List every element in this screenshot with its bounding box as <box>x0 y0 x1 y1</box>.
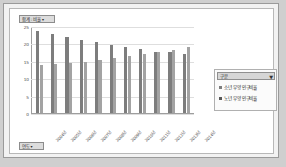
bar-group <box>51 27 58 113</box>
chart-container: 합계 : 비율▾ 0510152025 2004년2005년2006년2007년… <box>3 3 279 158</box>
legend-slicer: 구분 ▼ 소년 부양 인구비율 노년 부양 인구비율 <box>214 69 277 111</box>
bar[interactable] <box>187 47 190 113</box>
y-axis-tick-label: 20 <box>24 42 29 47</box>
bar[interactable] <box>143 54 146 114</box>
legend-item-label: 노년 부양 인구비율 <box>224 95 257 101</box>
bar-group <box>65 27 72 113</box>
bar-group <box>95 27 102 113</box>
x-axis-labels: 2004년2005년2006년2007년2008년2009년2010년2011년… <box>32 115 195 141</box>
bar-group <box>154 27 161 113</box>
bar-group <box>36 27 43 113</box>
legend-item-0[interactable]: 소년 부양 인구비율 <box>219 84 257 90</box>
y-axis-tick-label: 10 <box>24 77 29 82</box>
pivot-row-field-button[interactable]: 연도▾ <box>19 142 44 150</box>
bar-group <box>168 27 175 113</box>
legend-header-label: 구분 <box>220 73 228 79</box>
bar[interactable] <box>54 64 57 113</box>
bar[interactable] <box>113 58 116 113</box>
filter-icon[interactable]: ▼ <box>269 74 273 80</box>
bar-group <box>110 27 117 113</box>
x-axis-tick-label: 2014년 <box>203 130 216 143</box>
y-axis-tick-label: 15 <box>24 59 29 64</box>
legend-header[interactable]: 구분 ▼ <box>217 72 275 80</box>
bar-group <box>183 27 190 113</box>
legend-swatch-icon <box>219 97 222 100</box>
y-axis-tick-label: 5 <box>26 94 29 99</box>
bar[interactable] <box>157 52 160 113</box>
legend-swatch-icon <box>219 86 222 89</box>
bar-group <box>80 27 87 113</box>
pivot-value-field-label: 합계 : 비율 <box>22 17 41 22</box>
bar-groups <box>32 27 194 113</box>
chevron-down-icon: ▾ <box>42 17 44 22</box>
bar[interactable] <box>172 50 175 113</box>
bar[interactable] <box>128 56 131 113</box>
bar-group <box>124 27 131 113</box>
legend-item-label: 소년 부양 인구비율 <box>224 84 257 90</box>
legend-item-1[interactable]: 노년 부양 인구비율 <box>219 95 257 101</box>
y-axis-tick-label: 25 <box>24 25 29 30</box>
bar[interactable] <box>69 63 72 113</box>
x-axis-label-wrap: 2014년 <box>196 122 219 145</box>
y-axis-tick-label: 0 <box>26 112 29 117</box>
bar-group <box>139 27 146 113</box>
chevron-down-icon: ▾ <box>31 144 33 149</box>
bar[interactable] <box>84 62 87 113</box>
bar[interactable] <box>40 65 43 113</box>
pivot-value-field-button[interactable]: 합계 : 비율▾ <box>19 15 55 23</box>
bar[interactable] <box>98 60 101 113</box>
plot-region: 0510152025 <box>31 27 194 114</box>
chart-plot-area: 합계 : 비율▾ 0510152025 2004년2005년2006년2007년… <box>9 8 274 154</box>
pivot-row-field-label: 연도 <box>22 144 30 149</box>
